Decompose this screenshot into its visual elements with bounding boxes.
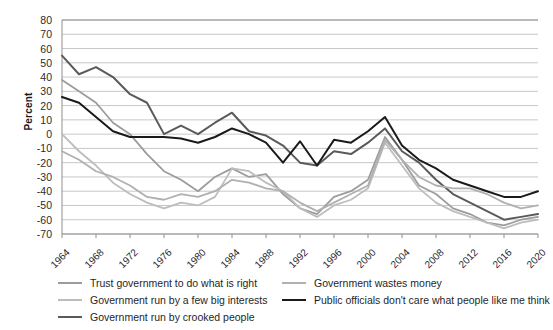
- x-tick-marks: [62, 234, 538, 238]
- y-tick-label: 50: [22, 58, 52, 68]
- legend-label: Public officials don't care what people …: [314, 294, 550, 306]
- y-tick-label: 0: [22, 129, 52, 139]
- series-lines: [62, 56, 538, 229]
- y-tick-label: 30: [22, 86, 52, 96]
- legend-item[interactable]: Public officials don't care what people …: [282, 294, 550, 306]
- y-tick-label: 80: [22, 15, 52, 25]
- legend-item[interactable]: Government wastes money: [282, 277, 442, 289]
- legend-item[interactable]: Trust government to do what is right: [58, 277, 257, 289]
- y-tick-label: -60: [22, 215, 52, 225]
- legend-swatch-icon: [58, 282, 82, 284]
- legend-swatch-icon: [282, 299, 306, 301]
- y-tick-label: 40: [22, 72, 52, 82]
- legend-swatch-icon: [58, 316, 82, 318]
- y-tick-label: -10: [22, 143, 52, 153]
- legend-label: Trust government to do what is right: [90, 277, 257, 289]
- legend-label: Government wastes money: [314, 277, 442, 289]
- legend-label: Government run by crooked people: [90, 311, 255, 323]
- y-tick-label: -50: [22, 200, 52, 210]
- legend-item[interactable]: Government run by a few big interests: [58, 294, 267, 306]
- legend-swatch-icon: [58, 299, 82, 301]
- legend-item[interactable]: Government run by crooked people: [58, 311, 255, 323]
- y-tick-label: 70: [22, 29, 52, 39]
- legend-label: Government run by a few big interests: [90, 294, 267, 306]
- chart-legend: Trust government to do what is rightGove…: [0, 272, 553, 330]
- legend-swatch-icon: [282, 282, 306, 284]
- line-chart: Percent 80706050403020100-10-20-30-40-50…: [0, 0, 553, 330]
- y-tick-label: -30: [22, 172, 52, 182]
- series-line: [62, 97, 538, 197]
- y-tick-label: 60: [22, 44, 52, 54]
- y-tick-label: -70: [22, 229, 52, 239]
- y-tick-label: 20: [22, 101, 52, 111]
- y-tick-label: 10: [22, 115, 52, 125]
- y-tick-label: -20: [22, 158, 52, 168]
- y-tick-label: -40: [22, 186, 52, 196]
